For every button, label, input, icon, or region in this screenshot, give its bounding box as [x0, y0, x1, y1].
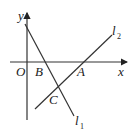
- geometry-diagram: y x O B A C l 2 l 1: [0, 0, 133, 136]
- line-label-l1: l 1: [75, 113, 84, 131]
- line-l2: [35, 35, 112, 109]
- point-label-B: B: [35, 64, 43, 79]
- svg-text:l: l: [75, 113, 79, 128]
- svg-text:1: 1: [80, 122, 84, 131]
- svg-text:l: l: [112, 23, 116, 38]
- point-label-C: C: [49, 92, 58, 107]
- line-label-l2: l 2: [112, 23, 121, 41]
- x-axis-label: x: [117, 64, 124, 79]
- y-axis-label: y: [16, 8, 24, 23]
- svg-text:2: 2: [117, 32, 121, 41]
- point-label-A: A: [76, 64, 85, 79]
- point-label-O: O: [16, 64, 26, 79]
